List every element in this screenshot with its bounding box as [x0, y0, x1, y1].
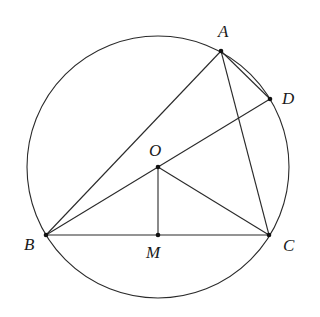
- segment-ab: [46, 51, 221, 235]
- geometry-diagram: A D O B M C: [0, 0, 320, 317]
- segment-oc: [158, 167, 269, 235]
- segment-ad: [221, 51, 270, 99]
- point-o: [156, 165, 161, 170]
- label-b: B: [24, 235, 35, 254]
- label-c: C: [283, 236, 295, 255]
- point-c: [267, 233, 272, 238]
- segment-ac: [221, 51, 269, 235]
- point-d: [268, 97, 273, 102]
- point-a: [219, 49, 224, 54]
- label-o: O: [149, 141, 161, 160]
- point-b: [44, 233, 49, 238]
- label-a: A: [217, 22, 229, 41]
- label-d: D: [281, 89, 295, 108]
- label-m: M: [145, 243, 161, 262]
- point-m: [156, 233, 161, 238]
